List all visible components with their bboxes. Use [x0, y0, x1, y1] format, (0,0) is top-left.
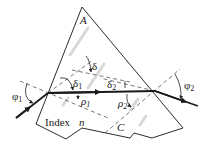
normal-left-face: [20, 81, 108, 118]
label-phi2: φ2: [184, 79, 194, 93]
refracted-ray-arrow: [48, 92, 100, 93]
deviation-reference: [72, 70, 130, 82]
label-index-n: n: [79, 116, 85, 128]
phi1-arc: [25, 83, 33, 103]
prism-refraction-diagram: A δ δ1 δ2 ρ1 ρ2 φ1 φ2 Index n C: [0, 0, 208, 151]
label-rho1: ρ1: [80, 95, 90, 109]
label-apex-a: A: [79, 14, 87, 26]
label-index: Index: [45, 116, 71, 128]
incident-ray-arrow: [16, 107, 30, 118]
label-delta2: δ2: [107, 78, 116, 92]
phi2-arc: [175, 74, 181, 99]
delta-arc: [86, 56, 91, 72]
label-delta1: δ1: [73, 77, 82, 91]
prism-left-face: [36, 7, 82, 124]
label-rho2: ρ2: [117, 97, 127, 111]
label-corner-c: C: [117, 121, 125, 133]
rho2-arc: [127, 94, 131, 107]
label-phi1: φ1: [12, 90, 22, 104]
label-deviation: δ: [92, 60, 97, 72]
